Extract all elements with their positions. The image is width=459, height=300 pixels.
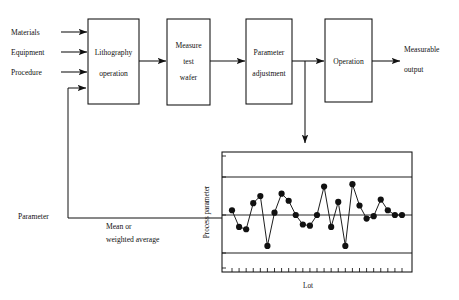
data-point <box>314 212 320 218</box>
data-point <box>300 221 306 227</box>
process-box-parameter-adjustment <box>246 19 292 104</box>
feedback-label-parameter: Parameter <box>18 212 49 221</box>
data-point <box>328 224 334 230</box>
process-box-measure-label-line3: wafer <box>180 73 198 82</box>
data-point <box>321 183 327 189</box>
input-label-procedure: Procedure <box>11 68 42 77</box>
process-box-measure-label-line1: Measure <box>175 41 202 50</box>
data-point <box>250 200 256 206</box>
data-point <box>356 202 362 208</box>
process-box-parameter-adjustment-label-line2: adjustment <box>252 69 286 78</box>
data-point <box>378 196 384 202</box>
feedback-note-line2: weighted average <box>106 235 160 244</box>
data-point <box>243 226 249 232</box>
process-box-lithography-label-line1: Lithography <box>95 48 133 57</box>
feedback-loop-line <box>68 88 222 218</box>
data-point <box>385 207 391 213</box>
data-point <box>271 210 277 216</box>
data-point <box>293 212 299 218</box>
data-point <box>286 198 292 204</box>
process-box-operation-label: Operation <box>333 57 364 66</box>
process-box-measure-label-line2: test <box>183 57 194 66</box>
data-point <box>307 223 313 229</box>
input-label-equipment: Equipment <box>11 48 45 57</box>
feedback-note-line1: Mean or <box>106 222 132 231</box>
data-point <box>349 181 355 187</box>
chart-x-axis-label: Lot <box>303 282 313 290</box>
process-box-lithography-label-line2: operation <box>99 69 128 78</box>
output-label-line1: Measurable <box>404 45 440 54</box>
process-flow-diagram: Materials Equipment Procedure Lithograph… <box>0 0 459 300</box>
data-point <box>392 212 398 218</box>
data-point <box>335 199 341 205</box>
data-point <box>264 243 270 249</box>
data-point <box>399 212 405 218</box>
data-point <box>342 243 348 249</box>
output-label-line2: output <box>404 65 424 74</box>
input-label-materials: Materials <box>11 28 40 37</box>
control-chart <box>222 152 412 272</box>
data-point <box>229 207 235 213</box>
data-point <box>257 193 263 199</box>
data-point <box>371 213 377 219</box>
chart-y-axis-label: Process parameter <box>203 185 211 238</box>
process-box-parameter-adjustment-label-line1: Parameter <box>254 48 285 57</box>
data-point <box>363 215 369 221</box>
data-point <box>236 224 242 230</box>
data-point <box>278 191 284 197</box>
process-box-lithography <box>88 19 139 104</box>
figure-canvas: Materials Equipment Procedure Lithograph… <box>0 0 459 300</box>
